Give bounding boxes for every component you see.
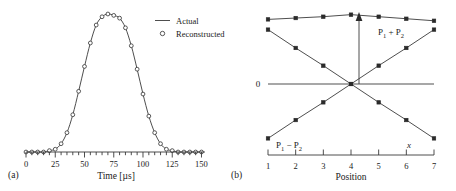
- data-point-marker: [53, 147, 57, 151]
- data-point-marker: [94, 23, 98, 27]
- arrow-head-icon: [356, 12, 363, 21]
- data-point-marker: [322, 64, 325, 67]
- data-point-marker: [294, 118, 297, 121]
- data-point-marker: [432, 19, 435, 22]
- data-point-marker: [100, 15, 104, 19]
- panel-b-tick-labels: 1234567: [266, 161, 436, 171]
- panel-b-tick-label: 1: [266, 161, 270, 171]
- vertical-arrow: [356, 12, 363, 84]
- data-point-marker: [432, 137, 435, 140]
- data-point-marker: [432, 28, 435, 31]
- panel-b-markers: [266, 13, 435, 140]
- panel-a-tick-label: 75: [110, 159, 119, 169]
- data-point-marker: [322, 101, 325, 104]
- panel-b-tick-label: 7: [432, 161, 436, 171]
- data-point-marker: [77, 89, 81, 93]
- legend-label-actual: Actual: [176, 16, 199, 26]
- panel-a-tick-label: 25: [51, 159, 60, 169]
- x-axis-symbol-label: x: [406, 140, 411, 150]
- data-point-marker: [124, 26, 128, 30]
- data-point-marker: [65, 131, 69, 135]
- panel-a-tick-label: 150: [195, 159, 208, 169]
- panel-a-label: (a): [8, 170, 19, 180]
- data-point-marker: [405, 17, 408, 20]
- data-point-marker: [106, 12, 110, 16]
- panel-a-tick-marks: [26, 152, 201, 158]
- panel-b-tick-label: 5: [377, 161, 381, 171]
- panel-b-x-axis-title: Position: [335, 172, 366, 182]
- data-point-marker: [377, 15, 380, 18]
- data-point-marker: [59, 142, 63, 146]
- data-point-marker: [349, 13, 352, 16]
- panel-a-x-axis-title: Time [µs]: [97, 171, 135, 181]
- data-point-marker: [294, 16, 297, 19]
- data-point-marker: [266, 28, 269, 31]
- data-point-marker: [294, 46, 297, 49]
- panel-b-tick-label: 6: [404, 161, 408, 171]
- panel-b-tick-label: 3: [321, 161, 325, 171]
- panel-b-tick-label: 2: [294, 161, 298, 171]
- panel-b-chart: 0 P1 + P2 P1 − P2 x 1234567 Position: [228, 0, 456, 191]
- data-point-marker: [153, 131, 157, 135]
- legend-label-reconstructed: Reconstructed: [176, 29, 225, 39]
- data-point-marker: [405, 46, 408, 49]
- panel-a-tick-label: 125: [166, 159, 179, 169]
- sum-series-label: P1 + P2: [378, 27, 404, 39]
- data-point-marker: [266, 137, 269, 140]
- data-point-marker: [266, 18, 269, 21]
- panel-a-tick-label: 100: [137, 159, 150, 169]
- data-point-marker: [164, 147, 168, 151]
- data-point-marker: [118, 16, 122, 20]
- panel-a-tick-label: 50: [80, 159, 89, 169]
- panel-a-tick-label: 0: [24, 159, 28, 169]
- data-point-marker: [322, 15, 325, 18]
- panel-b-tick-label: 4: [349, 161, 354, 171]
- panel-a-chart: 0255075100125150 Time [µs] Actual Recons…: [0, 0, 228, 191]
- data-point-marker: [159, 142, 163, 146]
- data-point-marker: [377, 64, 380, 67]
- data-point-marker: [129, 44, 133, 48]
- data-point-marker: [141, 92, 145, 96]
- data-point-marker: [135, 67, 139, 71]
- data-point-marker: [147, 114, 151, 118]
- panel-b-tick-marks: [268, 150, 434, 156]
- panel-b-label: (b): [231, 170, 242, 180]
- data-point-marker: [112, 13, 116, 17]
- figure-container: 0255075100125150 Time [µs] Actual Recons…: [0, 0, 456, 191]
- panel-a-legend: Actual Reconstructed: [155, 16, 225, 39]
- data-point-marker: [377, 101, 380, 104]
- data-point-marker: [88, 41, 92, 45]
- diff-series-label: P1 − P2: [276, 140, 302, 152]
- panel-a-tick-labels: 0255075100125150: [24, 159, 208, 169]
- data-point-marker: [349, 82, 352, 85]
- zero-label: 0: [256, 79, 261, 89]
- data-point-marker: [71, 113, 75, 117]
- legend-circle-swatch: [160, 31, 164, 35]
- data-point-marker: [83, 65, 87, 69]
- data-point-marker: [405, 118, 408, 121]
